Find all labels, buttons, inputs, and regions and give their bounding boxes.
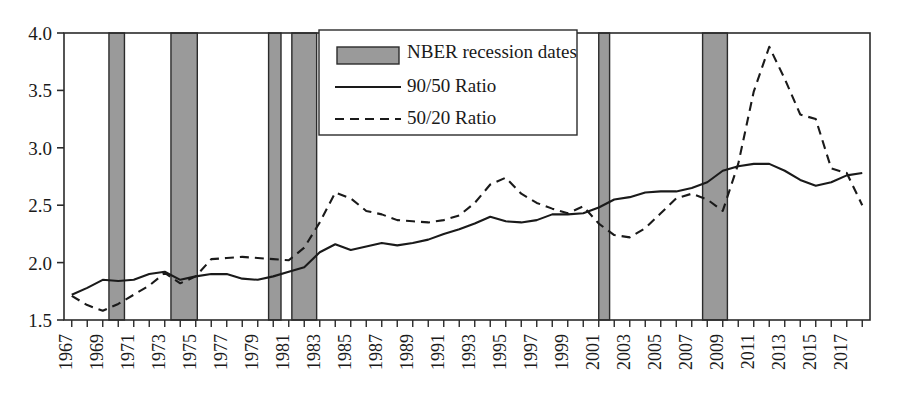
x-tick-label: 2009 [707,334,727,370]
x-tick-label: 1995 [490,334,510,370]
x-tick-label: 2013 [769,334,789,370]
y-tick-label: 2.5 [28,195,52,216]
legend-swatch-recession [337,47,399,64]
x-tick-label: 1989 [397,334,417,370]
x-tick-label: 2017 [831,334,851,370]
recession-band [109,33,125,320]
x-tick-label: 1983 [304,334,324,370]
x-tick-label: 1997 [521,334,541,370]
x-tick-label: 2007 [676,334,696,370]
chart-figure: 1.52.02.53.03.54.01967196919711973197519… [0,0,901,398]
x-tick-label: 1975 [180,334,200,370]
x-tick-label: 2005 [645,334,665,370]
x-axis: 1967196919711973197519771979198119831985… [56,320,863,370]
recession-band [292,33,317,320]
legend-label-90-50-ratio: 90/50 Ratio [407,75,496,96]
x-tick-label: 1969 [87,334,107,370]
y-tick-label: 2.0 [28,253,52,274]
x-tick-label: 1993 [459,334,479,370]
x-tick-label: 1971 [118,334,138,370]
x-tick-label: 2003 [614,334,634,370]
x-tick-label: 1987 [366,334,386,370]
x-tick-label: 2001 [583,334,603,370]
x-tick-label: 1991 [428,334,448,370]
x-tick-label: 1999 [552,334,572,370]
y-tick-label: 3.5 [28,80,52,101]
legend: NBER recession dates90/50 Ratio50/20 Rat… [319,30,577,135]
recession-band [599,33,610,320]
x-tick-label: 2015 [800,334,820,370]
legend-label-50-20-ratio: 50/20 Ratio [407,107,496,128]
y-tick-label: 3.0 [28,138,52,159]
x-tick-label: 1977 [211,334,231,370]
y-axis: 1.52.02.53.03.54.0 [28,23,64,331]
x-tick-label: 1985 [335,334,355,370]
ratio-line-chart: 1.52.02.53.03.54.01967196919711973197519… [0,0,901,398]
x-tick-label: 1981 [273,334,293,370]
legend-label-nber-recession-dates: NBER recession dates [407,41,577,62]
x-tick-label: 1979 [242,334,262,370]
y-tick-label: 1.5 [28,310,52,331]
y-tick-label: 4.0 [28,23,52,44]
x-tick-label: 2011 [738,334,758,369]
x-tick-label: 1973 [149,334,169,370]
x-tick-label: 1967 [56,334,76,370]
